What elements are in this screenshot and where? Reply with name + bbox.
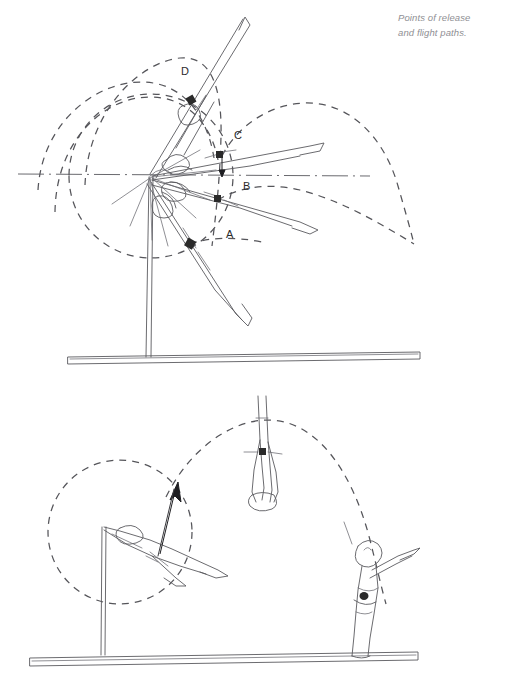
caption-line-2: and flight paths. (398, 25, 503, 40)
flight-path-arc-b-right (218, 186, 414, 244)
caption-line-1: Points of release (398, 10, 503, 25)
flight-apex-figure (244, 396, 282, 511)
flight-path-arcs-top (38, 58, 233, 258)
gymnast-figure-b (152, 180, 318, 234)
flight-path-arc-c2 (55, 97, 218, 212)
figure-page: .ln { fill:none; stroke:#5a5a5f; stroke-… (0, 0, 507, 690)
floor-beam-top (68, 352, 420, 364)
bar-post-bottom (101, 527, 106, 655)
top-figure-group (18, 17, 420, 364)
figure-caption: Points of release and flight paths. (398, 10, 503, 40)
gymnast-figures-top (112, 17, 324, 326)
biomechanics-figure: .ln { fill:none; stroke:#5a5a5f; stroke-… (0, 0, 507, 690)
release-label-d: D (181, 65, 189, 77)
release-label-a: A (226, 228, 234, 240)
gymnast-figure-d (150, 17, 250, 178)
release-label-c: C (234, 129, 242, 141)
bottom-figure-group (30, 396, 420, 666)
flight-path-arc-d (85, 58, 221, 246)
floor-beam-bottom (30, 652, 418, 666)
release-position-figure (104, 525, 228, 586)
flight-path-arc-c-right (222, 103, 413, 240)
release-label-b: B (243, 180, 251, 192)
swing-circle-top (69, 94, 233, 258)
flight-path-arc-bottom (166, 420, 386, 604)
